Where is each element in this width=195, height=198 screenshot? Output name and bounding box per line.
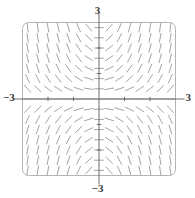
slope-field-plot	[0, 0, 195, 198]
slope-field-figure: 3 −3 −3 3	[0, 0, 195, 198]
axis-label-left: −3	[3, 92, 15, 103]
axis-label-right: 3	[186, 92, 192, 103]
axis-label-bottom: −3	[0, 183, 195, 194]
axis-label-top: 3	[0, 5, 195, 16]
